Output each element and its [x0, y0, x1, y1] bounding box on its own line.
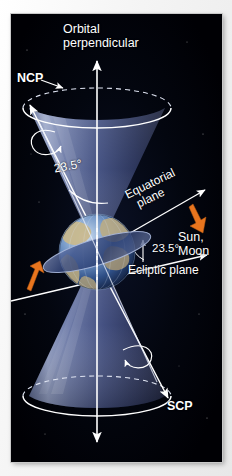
label-scp: SCP	[167, 399, 193, 413]
figure-page: Orbital perpendicular NCP SCP 23.5° 23.5…	[0, 0, 232, 476]
label-ncp: NCP	[17, 71, 43, 85]
label-orbital-perpendicular: Orbital perpendicular	[63, 22, 139, 50]
label-ecliptic-plane: Ecliptic plane	[128, 264, 199, 277]
label-angle-south: 23.5°	[152, 242, 179, 255]
diagram-plate: Orbital perpendicular NCP SCP 23.5° 23.5…	[11, 14, 222, 462]
label-sun-moon: Sun, Moon	[178, 230, 209, 259]
